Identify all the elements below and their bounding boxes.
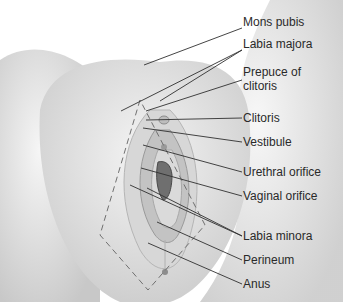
label-clitoris: Clitoris: [243, 112, 280, 125]
label-prepuce-line1: Prepuce of: [243, 66, 301, 79]
label-perineum: Perineum: [243, 254, 294, 267]
label-urethral-orifice: Urethral orifice: [243, 166, 321, 179]
label-prepuce-line2: clitoris: [243, 80, 277, 93]
label-vestibule: Vestibule: [243, 136, 292, 149]
label-labia-minora: Labia minora: [243, 230, 312, 243]
label-anus: Anus: [243, 278, 270, 291]
label-mons-pubis: Mons pubis: [243, 16, 304, 29]
label-vaginal-orifice: Vaginal orifice: [243, 190, 317, 203]
label-labia-majora: Labia majora: [243, 38, 312, 51]
anatomy-figure: Mons pubis Labia majora Prepuce of clito…: [0, 0, 343, 302]
